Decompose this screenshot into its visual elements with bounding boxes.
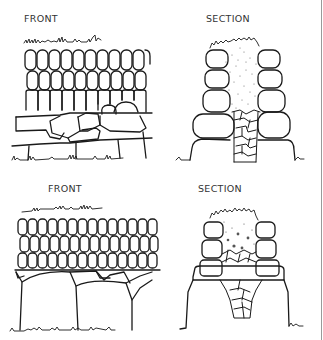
large-stones	[12, 113, 152, 160]
top-front-view	[12, 35, 152, 160]
cobble-row-1b	[18, 219, 157, 235]
bottom-section-view	[180, 208, 303, 329]
section-grass-crown-2	[210, 208, 258, 220]
foundation-boulders	[16, 271, 152, 330]
grass-top-edge-2	[22, 205, 102, 212]
soil-fill-2	[223, 221, 254, 249]
bottom-front-view	[10, 205, 160, 331]
top-section-view	[176, 37, 304, 162]
wall-diagram: FRONT SECTION FRONT SECTION	[0, 0, 323, 340]
foundation-left	[180, 280, 193, 329]
right-facing-stones-2	[256, 222, 279, 276]
capstone-slab	[193, 266, 284, 280]
left-facing-stones	[190, 50, 234, 160]
section-ground-right-2	[289, 323, 303, 326]
section-ground-right	[295, 157, 304, 160]
rubble-core-2	[220, 250, 262, 318]
foundation-right	[284, 280, 289, 326]
cobble-row-2b	[20, 236, 158, 252]
ground-grass-2	[10, 327, 115, 331]
grass-top-edge	[24, 35, 101, 43]
right-facing-stones	[258, 50, 295, 160]
drawing-surface	[0, 0, 323, 340]
cobble-row-1	[25, 50, 150, 70]
rubble-core	[232, 110, 260, 162]
section-grass-crown	[210, 37, 259, 48]
cobble-row-3b	[18, 253, 157, 268]
left-facing-stones-2	[200, 222, 223, 276]
section-ground-left	[176, 157, 190, 160]
cobble-row-2	[27, 71, 146, 90]
cobble-row-3	[26, 90, 146, 114]
